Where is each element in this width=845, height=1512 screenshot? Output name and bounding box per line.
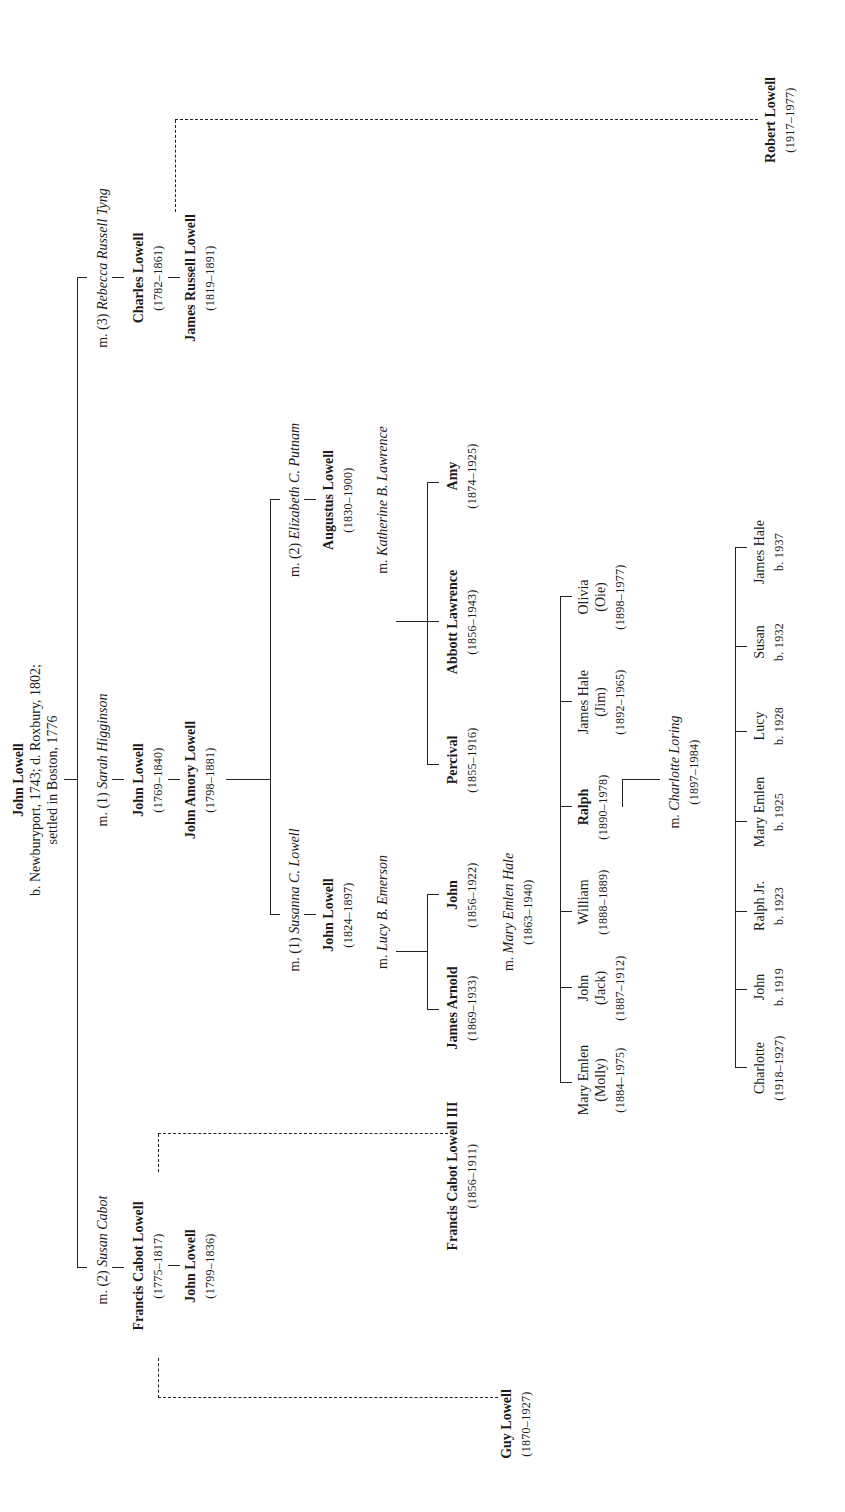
bracket-tick: [270, 499, 280, 500]
descent-line: [396, 951, 427, 952]
descent-line: [304, 914, 316, 915]
descent-line: [622, 780, 623, 807]
person-francis-cabot-lowell-iii: Francis Cabot Lowell III (1856–1911): [442, 1102, 479, 1251]
grandchild-john: John b. 1919: [752, 968, 786, 1006]
bracket-tick: [560, 806, 572, 807]
marriage-katherine-b-lawrence: m. Katherine B. Lawrence: [372, 426, 392, 574]
bracket-tick: [735, 547, 747, 548]
person-james-russell-lowell: James Russell Lowell (1819–1891): [180, 214, 217, 342]
child-william: William (1888–1889): [576, 869, 610, 934]
marriage-lucy-b-emerson: m. Lucy B. Emerson: [372, 855, 392, 969]
bracket-tick: [560, 1082, 572, 1083]
root-name: John Lowell: [11, 743, 26, 817]
bracket-tick: [560, 596, 572, 597]
bracket-tick: [560, 701, 572, 702]
grandchild-james-hale: James Hale b. 1937: [752, 520, 786, 584]
bracket-tick-m3: [77, 277, 87, 278]
bracket-tick: [427, 764, 439, 765]
person-guy-lowell: Guy Lowell (1870–1927): [496, 1389, 533, 1459]
dashed-line-guy: [158, 1397, 498, 1398]
marriage-charlotte-loring: m. Charlotte Loring (1897–1984): [664, 715, 701, 828]
descent-line: [396, 621, 427, 622]
person-john-lowell-1824: John Lowell (1824–1897): [318, 878, 355, 952]
person-john-1856: John (1856–1922): [442, 862, 479, 927]
grandchild-susan: Susan b. 1932: [752, 623, 786, 661]
dashed-line-fcl: [158, 1358, 159, 1398]
descent-line: [304, 499, 316, 500]
descent-line: [112, 1267, 124, 1268]
person-amy: Amy (1874–1925): [442, 443, 479, 508]
jal-bracket-line: [270, 500, 271, 915]
descent-line: [168, 277, 180, 278]
person-robert-lowell: Robert Lowell (1917–1977): [760, 77, 797, 163]
descent-line: [112, 277, 124, 278]
dashed-line-robert: [175, 120, 176, 212]
bracket-tick: [427, 621, 439, 622]
bracket-tick: [560, 911, 572, 912]
grandchild-ralph-jr: Ralph Jr. b. 1923: [752, 881, 786, 931]
child-james-hale: James Hale (Jim) (1892–1965): [576, 669, 627, 734]
grandchild-charlotte: Charlotte (1918–1927): [752, 1035, 786, 1100]
bracket-tick: [427, 1009, 439, 1010]
descent-line: [226, 779, 270, 780]
marriage-elizabeth-c-putnam: m. (2) Elizabeth C. Putnam: [284, 423, 304, 577]
marriage-rebecca-russell-tyng: m. (3) Rebecca Russell Tyng: [92, 188, 112, 348]
root-settled: settled in Boston, 1776: [45, 664, 62, 896]
descent-line: [112, 779, 124, 780]
descent-line: [622, 779, 660, 780]
person-percival: Percival (1855–1916): [442, 727, 479, 792]
bracket-tick: [735, 911, 747, 912]
lowell-family-tree: John Lowell b. Newburyport, 1743; d. Rox…: [0, 0, 845, 1512]
bracket-tick: [735, 646, 747, 647]
child-john-jack: John (Jack) (1887–1912): [576, 955, 627, 1020]
person-james-arnold: James Arnold (1869–1933): [442, 967, 479, 1050]
child-ralph: Ralph (1890–1978): [576, 774, 610, 839]
root-birth-death: b. Newburyport, 1743; d. Roxbury, 1802;: [28, 664, 45, 896]
ralph-children-bracket: [735, 548, 736, 1068]
bracket-tick: [735, 989, 747, 990]
child-mary-emlen: Mary Emlen (Molly) (1884–1975): [576, 1045, 627, 1115]
augustus-children-bracket: [427, 483, 428, 765]
person-john-lowell-1769: John Lowell (1769–1840): [128, 743, 165, 817]
bracket-tick: [735, 731, 747, 732]
marriage-mary-emlen-hale: m. Mary Emlen Hale (1863–1940): [498, 853, 535, 971]
bracket-tick-m2: [77, 1267, 87, 1268]
child-olivia: Olivia (Oie) (1898–1977): [576, 564, 627, 629]
person-francis-cabot-lowell: Francis Cabot Lowell (1775–1817): [128, 1201, 165, 1330]
dashed-line-fcl3: [158, 1133, 448, 1134]
john-children-bracket: [560, 597, 561, 1083]
marriage-susan-cabot: m. (2) Susan Cabot: [92, 1196, 112, 1305]
root-stem-line: [64, 779, 77, 780]
person-abbott-lawrence: Abbott Lawrence (1856–1943): [442, 570, 479, 674]
grandchild-lucy: Lucy b. 1928: [752, 707, 786, 745]
root-person: John Lowell b. Newburyport, 1743; d. Rox…: [8, 664, 61, 896]
bracket-tick: [560, 987, 572, 988]
descent-line: [168, 1265, 180, 1266]
bracket-tick: [270, 914, 280, 915]
marriage-sarah-higginson: m. (1) Sarah Higginson: [92, 693, 112, 826]
dashed-line-fcl: [158, 1134, 159, 1172]
person-john-amory-lowell: John Amory Lowell (1798–1881): [180, 721, 217, 839]
jl1824-children-bracket: [427, 895, 428, 1010]
bracket-tick: [735, 821, 747, 822]
bracket-tick: [427, 482, 439, 483]
grandchild-mary-emlen: Mary Emlen b. 1925: [752, 777, 786, 847]
marriage-susanna-c-lowell: m. (1) Susanna C. Lowell: [284, 828, 304, 971]
person-charles-lowell: Charles Lowell (1782–1861): [128, 233, 165, 324]
bracket-tick: [427, 894, 439, 895]
descent-line: [168, 779, 180, 780]
bracket-tick: [735, 1067, 747, 1068]
person-john-lowell-1799: John Lowell (1799–1836): [180, 1229, 217, 1303]
person-augustus-lowell: Augustus Lowell (1830–1900): [318, 450, 355, 550]
root-bracket-line: [77, 278, 78, 1268]
dashed-line-robert: [175, 119, 758, 120]
